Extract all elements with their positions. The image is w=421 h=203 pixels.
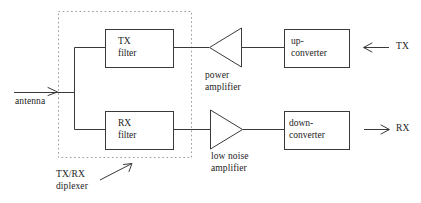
power-amplifier-label-line2: amplifier — [205, 82, 241, 92]
down-converter-label-line2: converter — [289, 130, 325, 140]
power-amplifier-symbol — [210, 28, 242, 67]
tx-filter-box — [106, 30, 174, 68]
low-noise-amplifier-symbol — [211, 110, 243, 149]
low-noise-amplifier-label: low noiseamplifier — [211, 151, 249, 174]
rx-port-label: RX — [396, 123, 409, 135]
rx-filter-label: RXfilter — [118, 118, 136, 141]
power-amplifier-label-line1: power — [205, 70, 229, 80]
tx-filter-label: TXfilter — [118, 36, 136, 59]
antenna-label: antenna — [15, 96, 45, 108]
tx-filter-label-line2: filter — [118, 48, 136, 58]
rx-filter-label-line1: RX — [118, 118, 131, 128]
diplexer-callout-line — [100, 164, 131, 180]
up-converter-label-line1: up- — [291, 36, 304, 46]
rx-filter-label-line2: filter — [118, 130, 136, 140]
rx-filter-box — [106, 112, 174, 150]
diplexer-label-line1: TX/RX — [56, 169, 85, 179]
down-converter-label: down-converter — [289, 118, 325, 141]
tx-port-label: TX — [396, 41, 409, 53]
down-converter-label-line1: down- — [289, 118, 313, 128]
block-diagram: TXfilter RXfilter up-converter down-conv… — [0, 0, 421, 203]
up-converter-label-line2: converter — [291, 48, 327, 58]
tx-filter-label-line1: TX — [118, 36, 131, 46]
power-amplifier-label: poweramplifier — [205, 70, 241, 93]
diplexer-label: TX/RXdiplexer — [56, 169, 88, 192]
lna-label-line1: low noise — [211, 151, 249, 161]
antenna-arrow-icon — [48, 88, 58, 96]
up-converter-label: up-converter — [291, 36, 327, 59]
lna-label-line2: amplifier — [211, 163, 247, 173]
diplexer-label-line2: diplexer — [56, 181, 88, 191]
